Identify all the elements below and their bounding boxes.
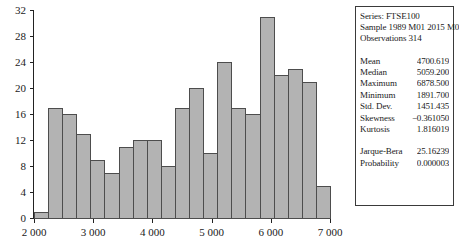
y-axis-tick — [30, 192, 34, 193]
stat-value: 4700.619 — [417, 56, 449, 67]
x-axis-tick-label: 7 000 — [305, 226, 355, 238]
x-axis-tick-label: 2 000 — [9, 226, 59, 238]
x-axis-tick-label: 3 000 — [68, 226, 118, 238]
observations-label: Observations 314 — [360, 33, 449, 44]
stat-label: Skewness — [360, 113, 395, 124]
x-axis-tick — [152, 219, 153, 223]
stat-label: Median — [360, 67, 387, 78]
statistics-panel: Series: FTSE100 Sample 1989 M01 2015 M02… — [355, 6, 454, 206]
stat-value: 1.816019 — [417, 124, 449, 135]
y-axis-tick-label: 4 — [0, 187, 26, 197]
histogram-bar — [119, 147, 134, 220]
histogram-bar — [231, 108, 246, 220]
stat-row: Median5059.200 — [360, 67, 449, 78]
x-axis-tick — [330, 219, 331, 223]
histogram-bar — [260, 17, 275, 220]
stat-row: Mean4700.619 — [360, 56, 449, 67]
histogram-bar — [34, 212, 49, 220]
x-axis-tick — [34, 219, 35, 223]
histogram-bar — [175, 108, 190, 220]
x-axis-tick — [93, 219, 94, 223]
stat-label: Minimum — [360, 90, 395, 101]
histogram-bar — [90, 160, 105, 220]
histogram-bar — [62, 114, 77, 219]
stat-value: 1451.435 — [417, 101, 449, 112]
descriptive-stats-list: Mean4700.619Median5059.200Maximum6878.50… — [360, 56, 449, 136]
series-label: Series: FTSE100 — [360, 11, 449, 22]
y-axis-tick-label: 0 — [0, 213, 26, 223]
stat-label: Kurtosis — [360, 124, 390, 135]
y-axis-tick — [30, 36, 34, 37]
stat-value: 6878.500 — [417, 78, 449, 89]
histogram-figure: 048121620242832 2 0003 0004 0005 0006 00… — [0, 0, 459, 250]
y-axis-tick — [30, 140, 34, 141]
stat-row: Minimum1891.700 — [360, 90, 449, 101]
x-axis-tick-label: 4 000 — [127, 226, 177, 238]
stat-value: 0.000003 — [417, 158, 449, 169]
stat-value: 25.16239 — [417, 146, 449, 157]
histogram-bar — [189, 88, 204, 219]
stat-label: Jarque-Bera — [360, 146, 402, 157]
stat-value: −0.361050 — [412, 113, 449, 124]
stat-label: Std. Dev. — [360, 101, 392, 112]
stat-label: Probability — [360, 158, 399, 169]
x-axis-tick — [271, 219, 272, 223]
histogram-bar — [133, 140, 148, 219]
histogram-bar — [316, 186, 331, 220]
y-axis-tick-label: 28 — [0, 31, 26, 41]
y-axis-tick-label: 32 — [0, 5, 26, 15]
x-axis-tick-label: 5 000 — [187, 226, 237, 238]
y-axis-tick — [30, 114, 34, 115]
stat-row: Kurtosis1.816019 — [360, 124, 449, 135]
stat-label: Mean — [360, 56, 380, 67]
sample-label: Sample 1989 M01 2015 M02 — [360, 22, 449, 33]
y-axis-tick — [30, 88, 34, 89]
histogram-bar — [161, 166, 176, 219]
normality-test-list: Jarque-Bera25.16239Probability0.000003 — [360, 146, 449, 169]
y-axis-tick — [30, 10, 34, 11]
stat-row: Skewness−0.361050 — [360, 113, 449, 124]
histogram-bar — [274, 75, 289, 219]
spacer-2 — [360, 135, 449, 146]
histogram-bar — [48, 108, 63, 220]
stat-label: Maximum — [360, 78, 397, 89]
histogram-bar — [288, 69, 303, 220]
y-axis-tick — [30, 62, 34, 63]
y-axis-tick-label: 20 — [0, 83, 26, 93]
histogram-bar — [203, 153, 218, 219]
histogram-bar — [104, 173, 119, 220]
y-axis-tick-label: 8 — [0, 161, 26, 171]
stat-row: Maximum6878.500 — [360, 78, 449, 89]
histogram-bar — [302, 82, 317, 220]
stat-row: Std. Dev.1451.435 — [360, 101, 449, 112]
x-axis-tick-label: 6 000 — [246, 226, 296, 238]
spacer — [360, 45, 449, 56]
stat-value: 5059.200 — [417, 67, 449, 78]
histogram-bar — [217, 62, 232, 219]
y-axis-tick — [30, 166, 34, 167]
chart-plot-area: 048121620242832 2 0003 0004 0005 0006 00… — [0, 0, 340, 250]
stat-row: Jarque-Bera25.16239 — [360, 146, 449, 157]
y-axis-tick-label: 12 — [0, 135, 26, 145]
y-axis-tick-label: 16 — [0, 109, 26, 119]
x-axis-tick — [212, 219, 213, 223]
histogram-bar — [76, 134, 91, 220]
y-axis-tick-label: 24 — [0, 57, 26, 67]
histogram-bar — [245, 114, 260, 219]
histogram-bar — [147, 140, 162, 219]
stat-row: Probability0.000003 — [360, 158, 449, 169]
stat-value: 1891.700 — [417, 90, 449, 101]
